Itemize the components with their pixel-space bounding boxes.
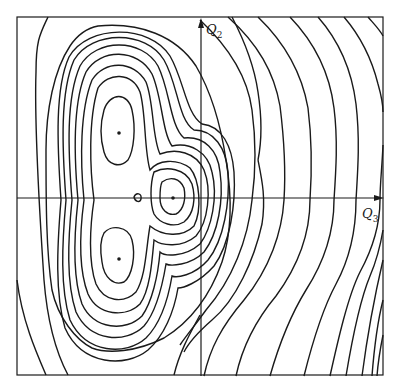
q3-label-subscript: 3 [373,214,379,224]
q3-axis-label: Q3 [362,206,378,224]
q2-axis-label: Q2 [206,22,222,40]
inner-contours [58,32,235,361]
minimum-marker-center [171,196,175,200]
minimum-marker-upper [117,131,121,135]
minimum-marker-lower [117,257,121,261]
contour-plot [0,0,398,392]
q2-label-subscript: 2 [217,30,223,40]
q2-label-text: Q [206,22,217,37]
q3-label-text: Q [362,206,373,221]
